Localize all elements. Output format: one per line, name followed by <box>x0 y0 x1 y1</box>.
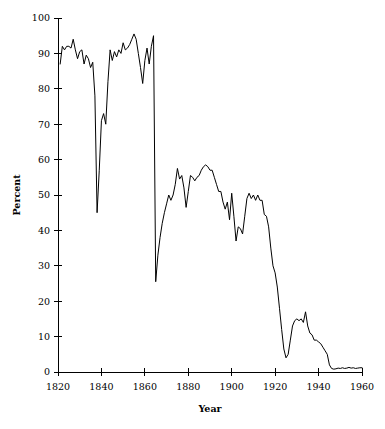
y-axis-title: Percent <box>11 174 22 216</box>
y-tick-label: 100 <box>32 12 50 23</box>
x-tick-label: 1920 <box>263 381 287 392</box>
y-tick-label: 40 <box>38 225 50 236</box>
x-tick-label: 1880 <box>176 381 200 392</box>
y-tick-label: 20 <box>38 296 50 307</box>
x-tick-label: 1860 <box>133 381 157 392</box>
y-tick-label: 30 <box>38 260 50 271</box>
x-tick-label: 1820 <box>46 381 70 392</box>
line-chart: 0102030405060708090100 18201840186018801… <box>0 0 385 429</box>
x-tick-label: 1960 <box>350 381 374 392</box>
x-tick-label: 1900 <box>220 381 244 392</box>
y-tick-label: 0 <box>44 366 50 377</box>
y-tick-label: 70 <box>38 119 50 130</box>
y-tick-label: 90 <box>38 48 50 59</box>
y-tick-label: 60 <box>38 154 50 165</box>
chart-container: 0102030405060708090100 18201840186018801… <box>0 0 385 429</box>
y-tick-label: 10 <box>38 331 50 342</box>
x-axis-title: Year <box>197 403 222 414</box>
y-tick-label: 50 <box>38 189 50 200</box>
x-tick-label: 1840 <box>89 381 113 392</box>
y-tick-label: 80 <box>38 83 50 94</box>
x-tick-label: 1940 <box>306 381 330 392</box>
